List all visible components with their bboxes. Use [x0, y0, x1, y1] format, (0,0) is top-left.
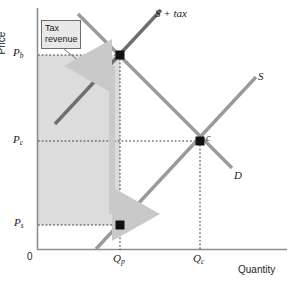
- origin-label: 0: [27, 252, 33, 262]
- point-tax-equilibrium: [116, 51, 125, 60]
- curve-label-supply: S: [258, 71, 264, 82]
- tax-revenue-callout-line1: Tax: [45, 23, 77, 34]
- point-competitive-equilibrium: [196, 137, 205, 146]
- curve-label-demand: D: [234, 170, 242, 181]
- quantity-tick-qp: Qp: [113, 253, 125, 265]
- price-tick-pb: Pb: [13, 47, 23, 59]
- price-tick-ps: Ps: [14, 217, 24, 229]
- point-label-c: c: [206, 133, 210, 143]
- x-axis-title: Quantity: [238, 265, 275, 275]
- tax-revenue-callout-line2: revenue: [45, 34, 77, 45]
- tax-revenue-area: [38, 55, 120, 225]
- price-tick-pc: Pc: [13, 134, 23, 146]
- diagram-canvas: Tax revenue Price Quantity 0 Pb Pc Ps Qp…: [0, 0, 295, 290]
- point-seller-price: [116, 221, 125, 230]
- quantity-tick-qc: Qc: [193, 253, 204, 265]
- y-axis-title: Price: [0, 32, 7, 55]
- curve-label-supply-plus-tax: S + tax: [155, 8, 187, 19]
- tax-revenue-callout: Tax revenue: [41, 20, 81, 49]
